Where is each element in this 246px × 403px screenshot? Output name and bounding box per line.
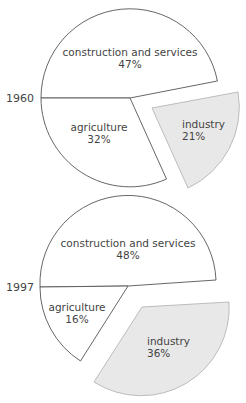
- pie-1997: 1997 construction and services 48% agric…: [6, 195, 229, 395]
- pct-industry-1960: 21%: [182, 130, 205, 142]
- label-construction-1960: construction and services: [63, 46, 198, 58]
- pct-construction-1960: 47%: [118, 58, 141, 70]
- pct-industry-1997: 36%: [147, 347, 170, 359]
- label-agriculture-1960: agriculture: [71, 121, 128, 133]
- year-label-1997: 1997: [6, 281, 34, 294]
- pie-1960: 1960 construction and services 47% agric…: [6, 9, 239, 188]
- label-agriculture-1997: agriculture: [49, 301, 106, 313]
- pct-agriculture-1960: 32%: [87, 133, 110, 145]
- pct-agriculture-1997: 16%: [65, 313, 88, 325]
- pie-charts: 1960 construction and services 47% agric…: [0, 0, 246, 403]
- label-industry-1997: industry: [147, 335, 190, 347]
- label-industry-1960: industry: [182, 118, 225, 130]
- label-construction-1997: construction and services: [61, 237, 196, 249]
- pct-construction-1997: 48%: [116, 249, 139, 261]
- year-label-1960: 1960: [6, 92, 34, 105]
